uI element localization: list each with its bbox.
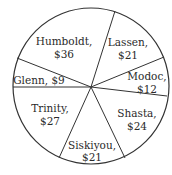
svg-text:Glenn, $9: Glenn, $9 [13,74,65,86]
svg-text:Lassen,: Lassen, [108,36,148,48]
svg-text:$36: $36 [54,48,74,60]
svg-text:Humboldt,: Humboldt, [36,35,93,47]
svg-text:$21: $21 [118,49,138,61]
slice-label-glenn: Glenn, $9 [13,74,65,86]
svg-text:$24: $24 [127,120,147,132]
svg-text:$27: $27 [40,115,60,127]
svg-text:Modoc,: Modoc, [127,70,166,82]
svg-text:Siskiyou,: Siskiyou, [68,139,116,151]
pie-chart: Humboldt, $36 Lassen, $21 Modoc, $12 Sha… [0,0,172,175]
svg-text:$21: $21 [82,151,102,163]
svg-text:Shasta,: Shasta, [117,107,156,119]
svg-text:$12: $12 [137,83,157,95]
svg-text:Trinity,: Trinity, [31,102,69,114]
